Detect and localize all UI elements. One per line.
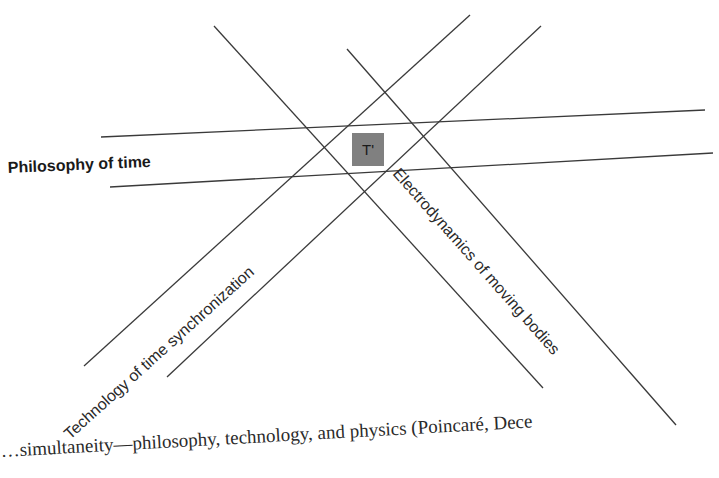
electrodynamics-band-right-line: [347, 49, 676, 425]
intersection-label: T': [362, 141, 374, 158]
technology-label: Technology of time synchronization: [61, 263, 257, 442]
philosophy-band-top-line: [101, 110, 705, 137]
diagram-figure: T' Philosophy of time Technology of time…: [0, 0, 719, 478]
intersection-box: T': [352, 133, 384, 166]
electrodynamics-band-left-line: [214, 26, 543, 388]
philosophy-label: Philosophy of time: [7, 153, 151, 176]
electrodynamics-label: Electrodynamics of moving bodies: [390, 165, 564, 358]
